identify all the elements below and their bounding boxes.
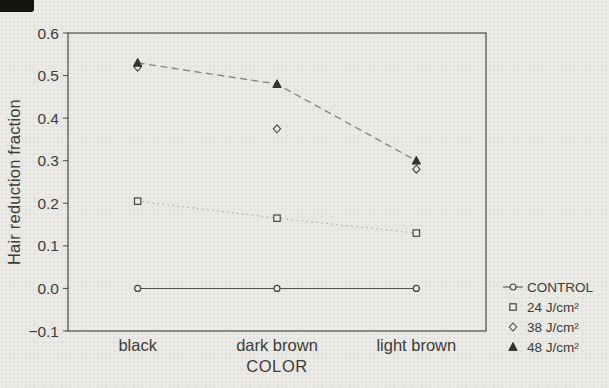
x-category-label: light brown bbox=[376, 336, 456, 354]
circle-marker bbox=[135, 285, 141, 291]
square-marker bbox=[134, 198, 140, 204]
square-marker bbox=[413, 230, 419, 236]
diamond-icon bbox=[502, 320, 524, 334]
triangle-filled-marker bbox=[273, 80, 281, 88]
y-axis-tick-label: 0.1 bbox=[37, 237, 59, 254]
legend-label: 38 J/cm² bbox=[527, 320, 579, 335]
legend-item: CONTROL bbox=[502, 277, 593, 297]
legend-item: 24 J/cm² bbox=[502, 297, 593, 317]
circle-marker bbox=[510, 284, 516, 290]
diamond-marker bbox=[273, 125, 280, 133]
x-axis-title: COLOR bbox=[246, 357, 308, 376]
triangle-filled-marker bbox=[509, 343, 517, 351]
x-category-label: dark brown bbox=[236, 336, 318, 354]
diamond-marker bbox=[509, 323, 516, 331]
legend-label: 48 J/cm² bbox=[527, 340, 579, 355]
circle-marker bbox=[413, 285, 419, 291]
square-marker bbox=[274, 215, 280, 221]
series-line-dashed bbox=[138, 63, 417, 161]
y-axis-tick-label: 0.2 bbox=[37, 195, 59, 212]
triangle-icon bbox=[502, 340, 524, 354]
circle-icon bbox=[502, 280, 524, 294]
legend-label: CONTROL bbox=[527, 280, 593, 295]
y-axis-tick-label: 0.5 bbox=[37, 67, 59, 84]
legend-item: 38 J/cm² bbox=[502, 317, 593, 337]
y-axis-tick-label: 0.6 bbox=[37, 25, 59, 42]
chart-figure: 0.60.50.40.30.20.10.0−0.1blackdark brown… bbox=[0, 0, 609, 388]
square-icon bbox=[502, 300, 524, 314]
legend-label: 24 J/cm² bbox=[527, 300, 579, 315]
triangle-filled-marker bbox=[412, 156, 420, 164]
diamond-marker bbox=[413, 165, 420, 173]
y-axis-tick-label: 0.0 bbox=[37, 280, 59, 297]
legend-item: 48 J/cm² bbox=[502, 337, 593, 357]
y-axis-title: Hair reduction fraction bbox=[5, 99, 24, 265]
y-axis-tick-label: 0.3 bbox=[37, 152, 59, 169]
scan-artifact bbox=[0, 0, 34, 12]
triangle-filled-marker bbox=[133, 58, 141, 66]
square-marker bbox=[510, 304, 516, 310]
x-category-label: black bbox=[118, 336, 157, 354]
circle-marker bbox=[274, 285, 280, 291]
legend: CONTROL24 J/cm²38 J/cm²48 J/cm² bbox=[502, 277, 593, 357]
y-axis-tick-label: 0.4 bbox=[37, 110, 59, 127]
y-axis-tick-label: −0.1 bbox=[28, 323, 59, 340]
